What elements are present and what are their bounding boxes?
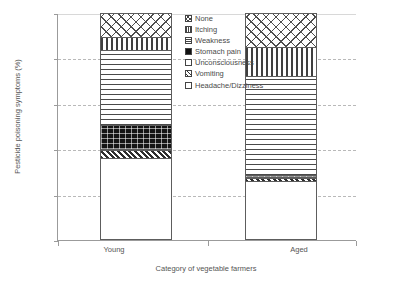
legend-label-itching: Itching [195, 25, 217, 34]
legend-label-none: None [195, 14, 213, 23]
stacked-bar-chart: Pesticide poisoning symptoms (%) 100% 80… [0, 0, 412, 284]
segment-young-headache-dizziness[interactable] [101, 158, 171, 239]
y-tickmark-80 [54, 59, 58, 60]
segment-aged-headache-dizziness[interactable] [246, 181, 316, 240]
segment-aged-weakness[interactable] [246, 76, 316, 175]
chart-legend: None Itching Weakness Stomach pain Uncon… [185, 14, 263, 90]
legend-label-vomiting: Vomiting [195, 69, 224, 78]
legend-item-vomiting[interactable]: Vomiting [185, 69, 263, 78]
legend-swatch-white-icon [185, 59, 192, 66]
legend-label-headache-dizziness: Headache/Dizziness [195, 81, 263, 90]
legend-label-stomach-pain: Stomach pain [195, 47, 241, 56]
legend-item-headache-dizziness[interactable]: Headache/Dizziness [185, 81, 263, 90]
y-axis-title: Pesticide poisoning symptoms (%) [13, 17, 22, 217]
legend-swatch-crosshatch-icon [185, 15, 192, 22]
x-tick-label-aged: Aged [244, 245, 354, 254]
legend-swatch-white-2-icon [185, 82, 192, 89]
segment-young-stomach-pain[interactable] [101, 125, 171, 149]
x-tick-label-young: Young [59, 245, 169, 254]
legend-swatch-horizontal-lines-icon [185, 37, 192, 44]
segment-young-weakness[interactable] [101, 50, 171, 125]
y-tickmark-60 [54, 105, 58, 106]
legend-item-weakness[interactable]: Weakness [185, 36, 263, 45]
legend-item-none[interactable]: None [185, 14, 263, 23]
x-tickmark-middle [208, 241, 209, 246]
y-tickmark-40 [54, 150, 58, 151]
legend-swatch-solid-black-icon [185, 48, 192, 55]
y-tickmark-100 [54, 14, 58, 15]
legend-swatch-diagonal-hatch-icon [185, 70, 192, 77]
legend-item-itching[interactable]: Itching [185, 25, 263, 34]
x-tickmark-right [356, 241, 357, 246]
legend-label-weakness: Weakness [195, 36, 230, 45]
legend-label-unconsciousness: Unconsciousness [195, 58, 254, 67]
segment-young-vomiting[interactable] [101, 150, 171, 158]
legend-swatch-vertical-lines-icon [185, 26, 192, 33]
bar-young[interactable] [100, 13, 172, 240]
x-axis-title: Category of vegetable farmers [0, 264, 412, 273]
legend-item-unconsciousness[interactable]: Unconsciousness [185, 58, 263, 67]
legend-item-stomach-pain[interactable]: Stomach pain [185, 47, 263, 56]
y-tickmark-20 [54, 196, 58, 197]
segment-young-none[interactable] [101, 14, 171, 37]
segment-young-itching[interactable] [101, 37, 171, 51]
